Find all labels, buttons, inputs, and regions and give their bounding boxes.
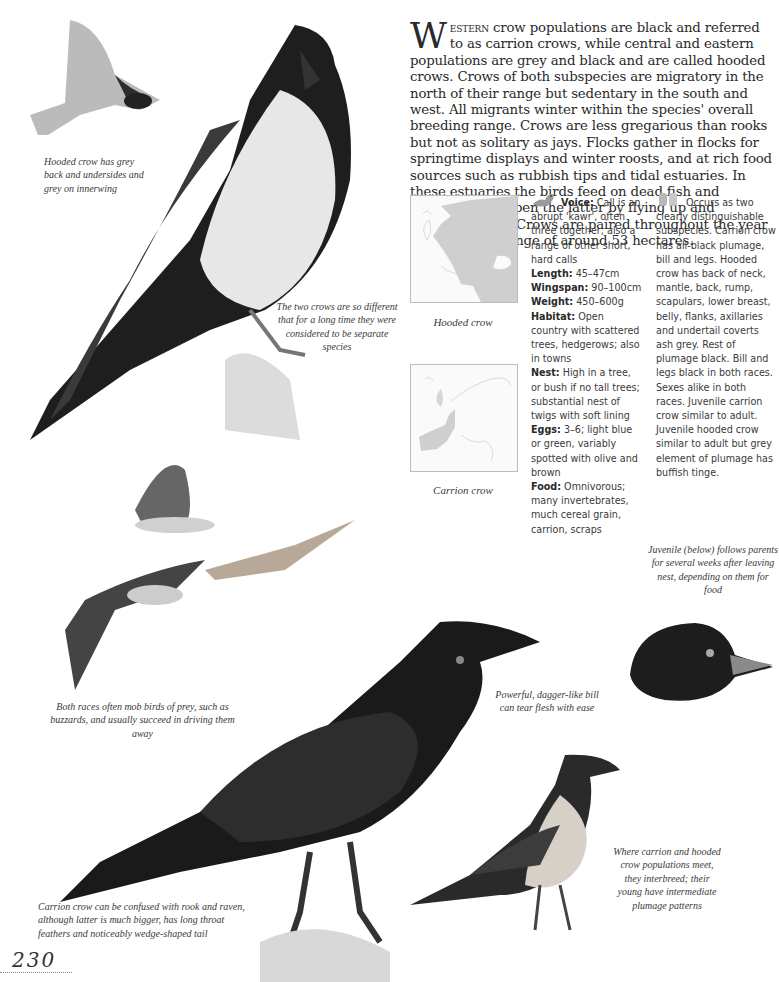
fact-label: Wingspan:: [531, 282, 588, 293]
caption-separate-species: The two crows are so different that for …: [272, 300, 402, 354]
map-caption-hooded: Hooded crow: [410, 316, 516, 328]
fact-label: Food:: [531, 481, 561, 492]
hooded-crow-perched-illustration: [10, 20, 355, 450]
caption-hybrid: Where carrion and hooded crow population…: [612, 845, 722, 912]
drop-cap: W: [410, 22, 447, 50]
fact-label: Nest:: [531, 367, 560, 378]
fact-label: Eggs:: [531, 424, 561, 435]
intro-lead: estern: [450, 20, 489, 35]
identification-text: Occurs as two clearly distinguishable su…: [656, 190, 776, 480]
map-caption-carrion: Carrion crow: [410, 484, 516, 496]
europe-map-hooded-icon: [411, 196, 517, 302]
caption-bill: Powerful, dagger-like bill can tear fles…: [488, 688, 606, 715]
bird-icon: [531, 190, 557, 210]
juvenile-crow-head-illustration: [625, 615, 775, 705]
caption-hooded-flight: Hooded crow has grey back and undersides…: [44, 155, 154, 195]
fact-label: Habitat:: [531, 311, 575, 322]
binoculars-icon: [656, 190, 682, 210]
fact-label: Length:: [531, 268, 573, 279]
caption-mob-prey: Both races often mob birds of prey, such…: [50, 700, 235, 740]
fact-value: 90–100cm: [588, 282, 641, 293]
fact-value: 45–47cm: [573, 268, 620, 279]
page-number: 230: [12, 948, 56, 972]
page-divider: [0, 972, 72, 973]
caption-juvenile: Juvenile (below) follows parents for sev…: [648, 543, 778, 597]
hybrid-crow-illustration: [410, 745, 630, 945]
fact-value: 450–600g: [573, 296, 624, 307]
fact-list: Voice: Call is an abrupt 'kawr', often t…: [531, 190, 643, 537]
fact-label: Voice:: [561, 197, 594, 208]
range-map-carrion: [410, 364, 518, 472]
europe-map-carrion-icon: [411, 365, 517, 471]
range-map-hooded: [410, 195, 518, 303]
fact-label: Weight:: [531, 296, 573, 307]
caption-confusion: Carrion crow can be confused with rook a…: [38, 900, 253, 940]
